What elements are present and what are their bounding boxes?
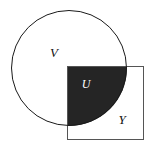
label-set-y: Y — [118, 112, 127, 127]
label-set-v: V — [50, 45, 60, 60]
venn-diagram-canvas: V U Y — [0, 0, 154, 153]
set-diagram-figure: V U Y — [0, 0, 154, 153]
intersection-region — [67, 66, 144, 140]
label-set-u: U — [82, 77, 92, 91]
